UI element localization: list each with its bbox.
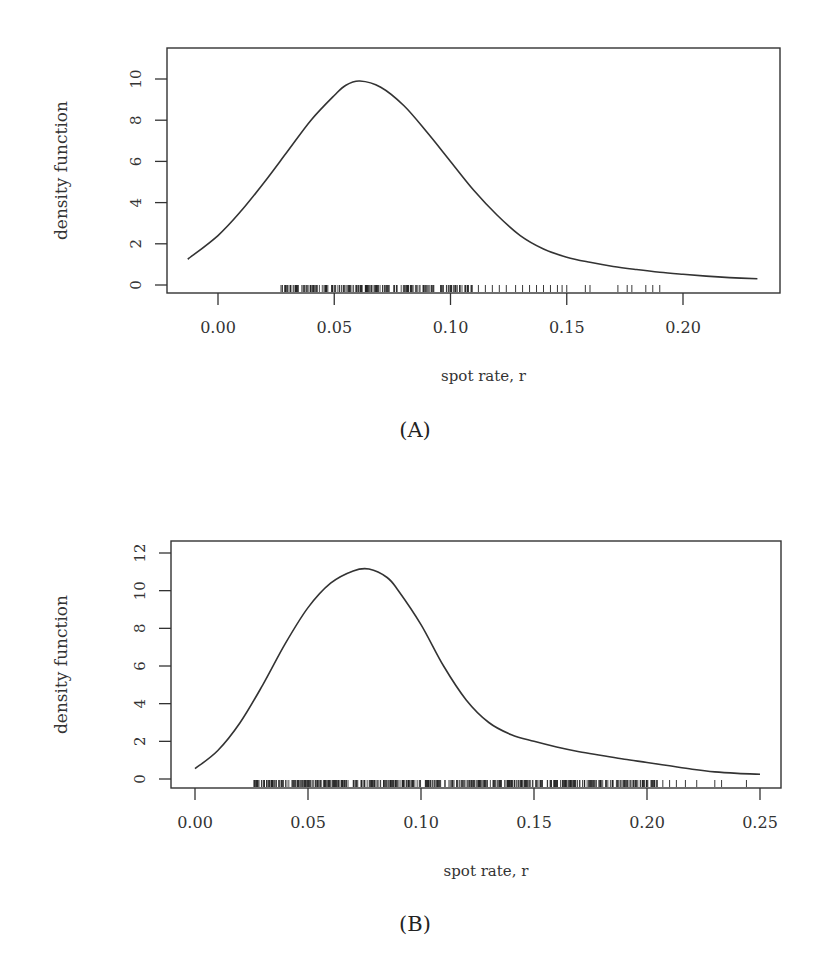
y-tick-label: 8 [131,624,149,634]
rug-marks [254,780,747,787]
x-tick-label: 0.25 [742,813,778,832]
density-curve [195,568,760,774]
y-tick-label: 4 [131,699,149,709]
panel-caption-b: (B) [0,912,830,936]
x-tick-label: 0.10 [403,813,439,832]
y-tick-label: 6 [131,661,149,671]
x-tick-label: 0.15 [516,813,552,832]
y-tick-label: 0 [131,774,149,784]
y-tick-label: 10 [131,581,149,600]
y-tick-label: 2 [131,737,149,747]
plot-frame [171,541,781,788]
x-tick-label: 0.20 [629,813,665,832]
density-chart-b: 0246810120.000.050.100.150.200.25spot ra… [0,0,830,958]
y-axis-label: density function [51,595,71,734]
x-axis-label: spot rate, r [444,862,530,880]
x-tick-label: 0.05 [290,813,326,832]
y-tick-label: 12 [131,543,149,562]
x-tick-label: 0.00 [177,813,213,832]
